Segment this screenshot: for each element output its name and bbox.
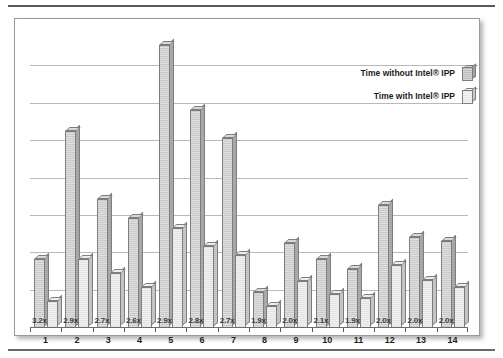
bar-group: 2.8x	[186, 28, 217, 328]
x-tick	[343, 328, 344, 332]
page-rule-top	[8, 5, 495, 7]
speedup-label: 1.9x	[251, 316, 266, 325]
speedup-label: 1.9x	[345, 316, 360, 325]
speedup-label: 2.0x	[282, 316, 297, 325]
x-axis-ticks: 1234567891011121314	[30, 328, 468, 346]
legend-swatch-with-icon	[462, 88, 473, 104]
speedup-label: 2.1x	[314, 316, 329, 325]
legend-item-with: Time with Intel® IPP	[361, 88, 473, 104]
x-axis-label: 2	[62, 335, 92, 345]
bar-with-ipp	[266, 306, 277, 328]
x-tick	[61, 328, 62, 332]
bar-with-ipp	[235, 255, 246, 328]
x-tick	[93, 328, 94, 332]
bar-with-ipp	[172, 228, 183, 328]
x-tick	[124, 328, 125, 332]
x-axis-label: 1	[31, 335, 61, 345]
bar-without-ipp	[97, 199, 108, 328]
bar-with-ipp	[203, 246, 214, 329]
bar-without-ipp	[190, 110, 201, 328]
bar-without-ipp	[65, 131, 76, 329]
speedup-label: 2.9x	[63, 316, 78, 325]
x-tick	[186, 328, 187, 332]
bar-without-ipp	[378, 205, 389, 328]
x-tick	[374, 328, 375, 332]
x-axis-label: 10	[312, 335, 342, 345]
x-axis-label: 8	[250, 335, 280, 345]
x-axis-label: 6	[187, 335, 217, 345]
bar-with-ipp	[360, 298, 371, 328]
speedup-label: 2.0x	[439, 316, 454, 325]
bar-with-ipp	[47, 301, 58, 328]
x-tick	[155, 328, 156, 332]
bar-with-ipp	[391, 265, 402, 328]
bar-group: 2.7x	[93, 28, 124, 328]
x-tick	[249, 328, 250, 332]
x-axis-label: 9	[281, 335, 311, 345]
bar-without-ipp	[159, 45, 170, 328]
x-tick	[467, 328, 468, 332]
bar-group: 2.9x	[155, 28, 186, 328]
x-axis-label: 13	[406, 335, 436, 345]
bar-without-ipp	[222, 138, 233, 328]
legend-label-with: Time with Intel® IPP	[374, 91, 455, 101]
bar-group: 3.2x	[30, 28, 61, 328]
x-tick	[218, 328, 219, 332]
legend-swatch-without-icon	[462, 65, 473, 81]
bar-with-ipp	[329, 294, 340, 328]
bar-with-ipp	[110, 273, 121, 328]
speedup-label: 2.7x	[220, 316, 235, 325]
chart-panel: 3.2x2.9x2.7x2.6x2.9x2.8x2.7x1.9x2.0x2.1x…	[14, 18, 480, 336]
x-axis-label: 11	[344, 335, 374, 345]
page-rule-bottom	[8, 349, 495, 351]
speedup-label: 2.8x	[188, 316, 203, 325]
bar-group: 2.1x	[312, 28, 343, 328]
bar-with-ipp	[297, 281, 308, 328]
speedup-label: 2.6x	[126, 316, 141, 325]
bar-group: 2.6x	[124, 28, 155, 328]
x-axis-label: 12	[375, 335, 405, 345]
bar-group: 2.9x	[61, 28, 92, 328]
bar-without-ipp	[441, 241, 452, 328]
bar-with-ipp	[78, 259, 89, 329]
speedup-label: 2.9x	[157, 316, 172, 325]
x-tick	[30, 328, 31, 332]
x-axis-label: 3	[93, 335, 123, 345]
speedup-label: 3.2x	[32, 316, 47, 325]
bar-group: 2.7x	[218, 28, 249, 328]
bar-with-ipp	[141, 287, 152, 328]
chart-legend: Time without Intel® IPP Time with Intel®…	[361, 65, 473, 111]
bar-without-ipp	[409, 237, 420, 328]
bar-group: 1.9x	[249, 28, 280, 328]
speedup-label: 2.7x	[95, 316, 110, 325]
x-tick	[405, 328, 406, 332]
bar-group: 2.0x	[280, 28, 311, 328]
x-axis-label: 4	[125, 335, 155, 345]
x-axis-label: 7	[218, 335, 248, 345]
speedup-label: 2.0x	[407, 316, 422, 325]
bar-with-ipp	[454, 287, 465, 328]
speedup-label: 2.0x	[376, 316, 391, 325]
x-tick	[437, 328, 438, 332]
x-axis-label: 5	[156, 335, 186, 345]
bar-with-ipp	[422, 280, 433, 328]
x-axis-label: 14	[437, 335, 467, 345]
legend-label-without: Time without Intel® IPP	[361, 68, 455, 78]
legend-item-without: Time without Intel® IPP	[361, 65, 473, 81]
x-tick	[312, 328, 313, 332]
x-tick	[280, 328, 281, 332]
bar-without-ipp	[128, 218, 139, 328]
